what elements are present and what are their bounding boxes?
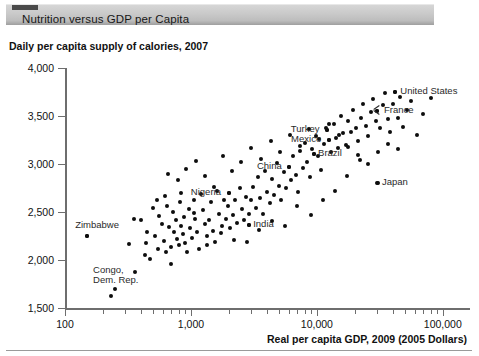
data-point: [201, 208, 205, 212]
data-point: [145, 230, 149, 234]
data-point: [305, 160, 309, 164]
data-point: [139, 218, 143, 222]
data-point: [220, 224, 224, 228]
data-point: [354, 126, 358, 130]
data-point: [185, 250, 189, 254]
data-point: [346, 119, 350, 123]
y-axis-tick: [58, 164, 65, 165]
x-axis-tick: [311, 309, 312, 314]
data-point: [171, 210, 175, 214]
data-point: [151, 206, 155, 210]
x-axis-tick: [289, 309, 290, 314]
x-axis-tick: [103, 309, 104, 314]
tab-marker-icon: [12, 5, 38, 10]
y-axis-tick: [58, 68, 65, 69]
data-point: [187, 207, 191, 211]
data-point: [182, 215, 186, 219]
data-point: [396, 147, 400, 151]
data-point: [157, 214, 161, 218]
data-point: [109, 294, 113, 298]
data-point-label: Nigeria: [191, 187, 221, 197]
data-point: [322, 142, 326, 146]
data-point: [361, 102, 365, 106]
data-point: [165, 204, 169, 208]
data-point: [356, 153, 360, 157]
x-axis-tick: [393, 309, 394, 314]
y-axis-tick: [58, 116, 65, 117]
data-point-label: China: [257, 161, 282, 171]
x-axis-tick: [171, 309, 172, 314]
data-point: [301, 166, 305, 170]
y-axis-tick-label: 3,000: [2, 158, 54, 170]
data-point: [254, 206, 258, 210]
data-point: [194, 159, 198, 163]
data-point: [401, 125, 405, 129]
data-point: [240, 207, 244, 211]
x-axis-tick: [317, 309, 318, 316]
data-point: [162, 239, 166, 243]
data-point: [386, 117, 390, 121]
data-point: [155, 198, 159, 202]
x-axis-tick: [377, 309, 378, 314]
data-point: [364, 124, 368, 128]
data-point: [333, 189, 337, 193]
data-point-label: Mexico: [291, 134, 321, 144]
x-axis-tick: [251, 309, 252, 314]
data-point: [272, 193, 276, 197]
data-point: [153, 234, 157, 238]
data-point-label: Brazil: [318, 148, 342, 158]
page-title: Nutrition versus GDP per Capita: [22, 13, 189, 25]
labelled-data-point: [287, 165, 291, 169]
data-point: [284, 186, 288, 190]
data-point: [298, 144, 302, 148]
data-point: [143, 253, 147, 257]
data-point-label: France: [384, 105, 414, 115]
x-axis-tick: [437, 309, 438, 314]
data-point-label: Congo,Dem. Rep.: [93, 265, 138, 286]
data-point: [192, 211, 196, 215]
x-axis-tick: [297, 309, 298, 314]
data-point: [270, 177, 274, 181]
data-point: [256, 175, 260, 179]
data-point: [295, 204, 299, 208]
data-point: [298, 149, 302, 153]
data-point: [144, 241, 148, 245]
data-point: [378, 126, 382, 130]
data-point: [160, 222, 164, 226]
data-point: [366, 162, 370, 166]
data-point: [232, 238, 236, 242]
data-point: [239, 160, 243, 164]
data-point: [167, 225, 171, 229]
data-point: [409, 99, 413, 103]
data-point: [359, 116, 363, 120]
y-axis-tick-label: 2,000: [2, 254, 54, 266]
data-point: [321, 198, 325, 202]
data-point: [181, 232, 185, 236]
y-axis-tick-label: 4,000: [2, 62, 54, 74]
data-point: [279, 198, 283, 202]
data-point-label: United States: [400, 86, 457, 96]
data-point: [193, 217, 197, 221]
data-point: [176, 178, 180, 182]
data-point: [219, 231, 223, 235]
data-point: [164, 250, 168, 254]
data-point: [174, 218, 178, 222]
x-axis-tick: [65, 309, 66, 316]
x-axis-tick: [415, 309, 416, 314]
data-point: [222, 198, 226, 202]
data-point: [345, 174, 349, 178]
data-point: [205, 234, 209, 238]
data-point: [156, 247, 160, 251]
data-point: [228, 226, 232, 230]
x-axis-tick: [405, 309, 406, 314]
data-point: [388, 130, 392, 134]
data-point: [230, 169, 234, 173]
x-axis-tick: [431, 309, 432, 314]
data-point: [358, 158, 362, 162]
data-point: [341, 131, 345, 135]
data-point: [421, 112, 425, 116]
x-axis-tick-label: 100: [56, 318, 74, 330]
x-axis-tick: [185, 309, 186, 314]
x-axis-tick: [179, 309, 180, 314]
data-point: [169, 262, 173, 266]
